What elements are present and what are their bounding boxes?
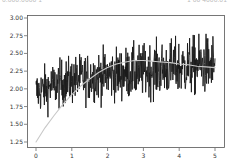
y-tick-label: 2.00 bbox=[10, 85, 24, 92]
x-tick-label: 2 bbox=[106, 152, 110, 159]
x-tick-label: 4 bbox=[177, 152, 181, 159]
x-tick-label: 5 bbox=[213, 152, 217, 159]
x-tick-label: 1 bbox=[70, 152, 74, 159]
x-axis: 012345 bbox=[34, 148, 217, 159]
y-tick-label: 2.50 bbox=[10, 49, 24, 56]
y-tick-label: 1.75 bbox=[10, 103, 24, 110]
y-tick-label: 3.00 bbox=[10, 14, 24, 21]
y-tick-label: 1.25 bbox=[10, 138, 24, 145]
line-chart: 012345 1.251.501.752.002.252.502.753.00 bbox=[0, 0, 233, 167]
y-tick-label: 1.50 bbox=[10, 120, 24, 127]
x-tick-label: 0 bbox=[34, 152, 38, 159]
y-tick-label: 2.75 bbox=[10, 32, 24, 39]
x-tick-label: 3 bbox=[141, 152, 145, 159]
y-tick-label: 2.25 bbox=[10, 67, 24, 74]
y-axis: 1.251.501.752.002.252.502.753.00 bbox=[10, 14, 27, 145]
